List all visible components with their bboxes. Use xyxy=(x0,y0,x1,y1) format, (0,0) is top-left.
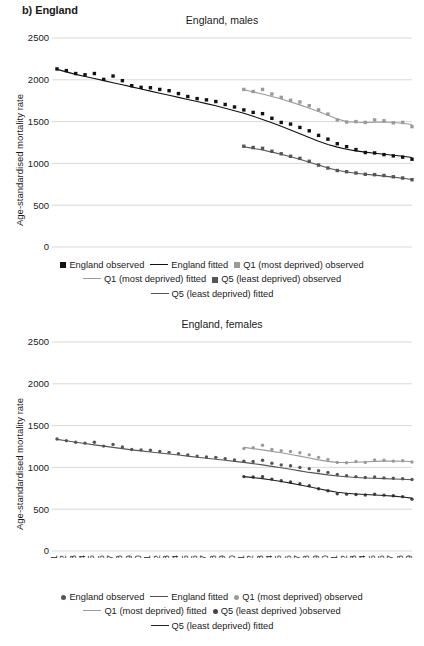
y-axis-tick-label: 2000 xyxy=(28,74,49,85)
data-point xyxy=(373,118,376,121)
legend-females-item[interactable]: Q1 (most deprived) observed xyxy=(234,590,362,604)
series-line xyxy=(244,90,412,125)
series-line xyxy=(57,69,412,157)
legend-males: England observedEngland fittedQ1 (most d… xyxy=(0,258,424,301)
y-axis-tick-label: 2000 xyxy=(28,378,49,389)
legend-square-marker-icon xyxy=(212,277,218,283)
legend-males-row: Q5 (least deprived) fitted xyxy=(0,287,424,301)
y-axis-tick-label: 1500 xyxy=(28,420,49,431)
data-point xyxy=(55,437,58,440)
legend-females-label: England observed xyxy=(69,590,144,604)
data-point xyxy=(261,88,264,91)
chart-england-females: England, females Age-standardised mortal… xyxy=(0,318,424,558)
data-point xyxy=(270,92,273,95)
data-point xyxy=(326,137,329,140)
legend-males-row: England observedEngland fittedQ1 (most d… xyxy=(0,258,424,272)
y-axis-tick-label: 1000 xyxy=(28,158,49,169)
legend-males-row: Q1 (most deprived) fittedQ5 (least depri… xyxy=(0,272,424,286)
y-axis-tick-label: 2500 xyxy=(28,32,49,43)
legend-males-label: England observed xyxy=(69,258,144,272)
legend-line-marker-icon xyxy=(83,278,101,279)
data-point xyxy=(261,444,264,447)
data-point xyxy=(280,463,283,466)
data-point xyxy=(317,469,320,472)
legend-females-item[interactable]: England fitted xyxy=(150,590,228,604)
legend-females-row: Q5 (least deprived) fitted xyxy=(0,619,424,633)
data-point xyxy=(345,145,348,148)
chart-england-males: England, males Age-standardised mortalit… xyxy=(0,14,424,254)
data-point xyxy=(111,443,114,446)
legend-females-item[interactable]: Q5 (least deprived) fitted xyxy=(151,619,274,633)
data-point xyxy=(177,92,180,95)
legend-females-label: Q5 (least deprived )observed xyxy=(221,604,341,618)
data-point xyxy=(93,441,96,444)
legend-males-item[interactable]: Q5 (least deprived) fitted xyxy=(151,287,274,301)
legend-females-label: England fitted xyxy=(171,590,228,604)
data-point xyxy=(410,125,413,128)
legend-females-label: Q1 (most deprived) fitted xyxy=(104,604,206,618)
data-point xyxy=(308,129,311,132)
data-point xyxy=(261,112,264,115)
data-point xyxy=(111,74,114,77)
data-point xyxy=(205,98,208,101)
data-point xyxy=(233,105,236,108)
data-point xyxy=(298,100,301,103)
legend-line-marker-icon xyxy=(83,610,101,611)
data-point xyxy=(280,449,283,452)
y-axis-tick-label: 1000 xyxy=(28,462,49,473)
legend-females-item[interactable]: Q1 (most deprived) fitted xyxy=(83,604,206,618)
legend-females-item[interactable]: Q5 (least deprived )observed xyxy=(213,604,341,618)
data-point xyxy=(158,88,161,91)
data-point xyxy=(223,103,226,106)
legend-females-row: England observedEngland fittedQ1 (most d… xyxy=(0,590,424,604)
data-point xyxy=(167,89,170,92)
legend-males-item[interactable]: Q1 (most deprived) observed xyxy=(234,258,363,272)
legend-males-label: Q5 (least deprived) observed xyxy=(221,272,341,286)
y-axis-tick-label: 0 xyxy=(44,241,49,252)
legend-males-label: Q1 (most deprived) observed xyxy=(243,258,363,272)
data-point xyxy=(93,72,96,75)
y-axis-tick-label: 0 xyxy=(44,545,49,556)
data-point xyxy=(121,79,124,82)
data-point xyxy=(308,104,311,107)
legend-males-label: England fitted xyxy=(171,258,228,272)
y-axis-tick-label: 500 xyxy=(33,504,49,515)
data-point xyxy=(317,456,320,459)
data-point xyxy=(308,453,311,456)
data-point xyxy=(214,100,217,103)
legend-males-item[interactable]: Q5 (least deprived) observed xyxy=(212,272,341,286)
series-line xyxy=(244,477,412,499)
data-point xyxy=(242,108,245,111)
legend-females-label: Q5 (least deprived) fitted xyxy=(172,619,274,633)
legend-males-item[interactable]: England fitted xyxy=(150,258,228,272)
data-point xyxy=(298,126,301,129)
plot-area-males: 05001000150020002500 xyxy=(0,14,424,254)
data-point xyxy=(270,117,273,120)
legend-square-marker-icon xyxy=(234,262,240,268)
data-point xyxy=(270,462,273,465)
data-point xyxy=(261,475,264,478)
data-point xyxy=(289,450,292,453)
data-point xyxy=(410,158,413,161)
data-point xyxy=(186,95,189,98)
data-point xyxy=(261,459,264,462)
data-point xyxy=(251,111,254,114)
y-axis-tick-label: 1500 xyxy=(28,116,49,127)
legend-males-label: Q1 (most deprived) fitted xyxy=(104,272,206,286)
legend-males-item[interactable]: England observed xyxy=(60,258,144,272)
legend-females-item[interactable]: England observed xyxy=(61,590,144,604)
legend-line-marker-icon xyxy=(150,596,168,597)
data-point xyxy=(251,460,254,463)
data-point xyxy=(280,121,283,124)
data-point xyxy=(289,464,292,467)
legend-males-label: Q5 (least deprived) fitted xyxy=(172,287,274,301)
plot-area-females: 0500100015002000250019811982198319841985… xyxy=(0,318,424,558)
data-point xyxy=(308,467,311,470)
data-point xyxy=(336,142,339,145)
data-point xyxy=(149,86,152,89)
legend-line-marker-icon xyxy=(151,625,169,626)
y-axis-tick-label: 500 xyxy=(33,200,49,211)
legend-males-item[interactable]: Q1 (most deprived) fitted xyxy=(83,272,206,286)
legend-circle-marker-icon xyxy=(61,595,66,600)
legend-females-row: Q1 (most deprived) fittedQ5 (least depri… xyxy=(0,604,424,618)
